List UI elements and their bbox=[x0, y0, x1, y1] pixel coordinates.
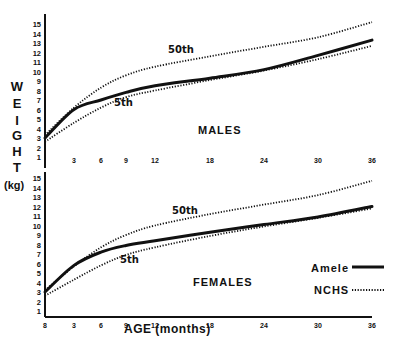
x-tick-label: 8 bbox=[43, 322, 47, 329]
x-tick-label: 3 bbox=[72, 157, 76, 164]
y-tick-label: 15 bbox=[33, 20, 41, 29]
y-tick-label: 8 bbox=[37, 241, 41, 250]
x-tick-label: 12 bbox=[151, 157, 159, 164]
x-tick-label: 30 bbox=[314, 157, 322, 164]
males-title: MALES bbox=[198, 124, 242, 136]
females-title: FEMALES bbox=[193, 276, 253, 288]
y-tick-label: 10 bbox=[33, 222, 41, 231]
males-50th-label: 50th bbox=[168, 44, 194, 55]
females-50th-label: 50th bbox=[172, 205, 198, 216]
y-tick-label: 12 bbox=[33, 49, 41, 58]
y-tick-label: 3 bbox=[37, 288, 41, 297]
x-tick-label: 3 bbox=[72, 322, 76, 329]
legend-amele-label: Amele bbox=[311, 262, 349, 274]
ylabel-letter: G bbox=[10, 128, 24, 143]
y-tick-label: 1 bbox=[37, 153, 41, 162]
x-tick-label: 18 bbox=[206, 157, 214, 164]
x-tick-label: 6 bbox=[99, 322, 103, 329]
y-tick-label: 2 bbox=[37, 298, 41, 307]
females-panel: 12345678910111213141583691218243036 bbox=[33, 172, 376, 329]
y-tick-label: 7 bbox=[37, 250, 41, 259]
x-axis-label: AGE (months) bbox=[124, 322, 211, 336]
y-tick-label: 6 bbox=[37, 106, 41, 115]
y-tick-label: 12 bbox=[33, 203, 41, 212]
ylabel-letter: I bbox=[10, 113, 24, 128]
y-tick-label: 15 bbox=[33, 174, 41, 183]
y-tick-label: 13 bbox=[33, 39, 41, 48]
y-tick-label: 5 bbox=[37, 115, 41, 124]
x-tick-label: 24 bbox=[260, 157, 268, 164]
ylabel-letter: H bbox=[10, 144, 24, 159]
y-tick-label: 11 bbox=[33, 212, 41, 221]
y-tick-label: 4 bbox=[37, 279, 42, 288]
x-tick-label: 30 bbox=[314, 322, 322, 329]
x-tick-label: 9 bbox=[124, 157, 128, 164]
x-tick-label: 36 bbox=[368, 157, 376, 164]
y-tick-label: 9 bbox=[37, 231, 41, 240]
y-tick-label: 9 bbox=[37, 77, 41, 86]
y-tick-label: 1 bbox=[37, 307, 41, 316]
females-5th-label: 5th bbox=[120, 254, 139, 265]
x-tick-label: 24 bbox=[260, 322, 268, 329]
y-tick-label: 6 bbox=[37, 260, 41, 269]
ylabel-letter: E bbox=[10, 96, 24, 111]
males-5th-label: 5th bbox=[114, 97, 133, 108]
legend-nchs-label: NCHS bbox=[314, 284, 349, 296]
y-tick-label: 14 bbox=[33, 184, 42, 193]
ylabel-unit: (kg) bbox=[4, 179, 24, 191]
y-tick-label: 3 bbox=[37, 134, 41, 143]
y-tick-label: 2 bbox=[37, 144, 41, 153]
y-tick-label: 13 bbox=[33, 193, 41, 202]
y-tick-label: 7 bbox=[37, 96, 41, 105]
ylabel-letter: T bbox=[10, 160, 24, 175]
y-tick-label: 5 bbox=[37, 269, 41, 278]
x-tick-label: 36 bbox=[368, 322, 376, 329]
x-tick-label: 6 bbox=[99, 157, 103, 164]
y-tick-label: 11 bbox=[33, 58, 41, 67]
y-tick-label: 14 bbox=[33, 30, 42, 39]
y-tick-label: 4 bbox=[37, 125, 42, 134]
y-tick-label: 8 bbox=[37, 87, 41, 96]
males-panel: 1234567891011121314153691218243036 bbox=[33, 14, 376, 168]
ylabel-letter: W bbox=[10, 79, 24, 94]
y-tick-label: 10 bbox=[33, 68, 41, 77]
